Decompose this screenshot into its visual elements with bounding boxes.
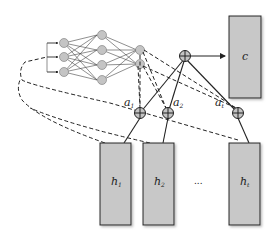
context-box: c [229, 16, 261, 98]
attention-diagram: a1 a2 at c h1 h2 ... ht [0, 0, 277, 238]
weight-node-2 [163, 108, 174, 119]
hidden-state-2: h2 [143, 143, 174, 225]
hidden-state-1: h1 [100, 143, 131, 225]
weight-label-1: a1 [124, 96, 134, 109]
context-label: c [242, 50, 248, 63]
weight-node-t [233, 108, 244, 119]
network-nodes [60, 31, 145, 85]
sum-node [180, 51, 191, 62]
weight-label-2: a2 [173, 96, 184, 109]
ellipsis: ... [194, 176, 203, 186]
weight-node-1 [135, 108, 146, 119]
hidden-state-t: ht [229, 143, 260, 225]
